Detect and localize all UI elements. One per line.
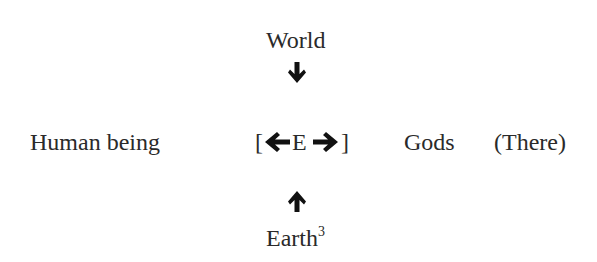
arrow-down-icon [288,62,306,84]
label-earth: Earth3 [266,226,325,250]
arrow-up-icon [288,190,306,212]
label-e: E [292,130,307,154]
footnote-marker: 3 [318,224,325,239]
arrow-left-icon [264,132,290,152]
close-bracket: ] [341,130,349,154]
label-there: (There) [494,130,566,154]
label-human-being: Human being [30,130,160,154]
arrow-right-icon [313,132,339,152]
label-world: World [266,28,325,52]
label-gods: Gods [404,130,455,154]
open-bracket: [ [255,130,263,154]
label-earth-text: Earth [266,225,318,251]
